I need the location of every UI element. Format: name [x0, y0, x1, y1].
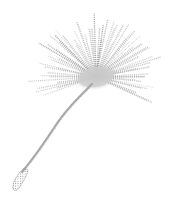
seed-stalk [22, 84, 92, 172]
seed-stalk-shadow [23, 85, 93, 173]
dandelion-seed-illustration [0, 0, 182, 213]
seed-achene [13, 168, 28, 190]
